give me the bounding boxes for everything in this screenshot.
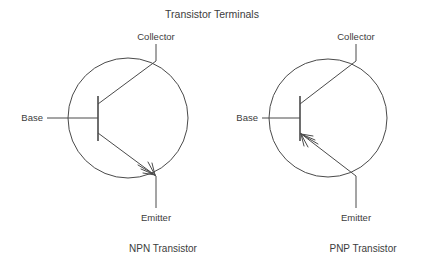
npn-emitter-slant [98, 133, 156, 176]
transistor-terminals-figure: Transistor Terminals [0, 0, 424, 267]
transistor-diagram-canvas: Transistor Terminals [0, 0, 424, 267]
npn-transistor-diagram: Base Collector Emitter NPN Transistor [21, 31, 197, 254]
figure-title: Transistor Terminals [165, 8, 259, 20]
pnp-collector-label: Collector [337, 31, 375, 42]
pnp-transistor-diagram: Base Collector Emitter PNP Transistor [236, 31, 397, 254]
pnp-base-label: Base [236, 112, 258, 123]
pnp-collector-slant [300, 61, 356, 104]
pnp-caption: PNP Transistor [329, 243, 397, 254]
npn-emitter-label: Emitter [141, 212, 171, 223]
npn-caption: NPN Transistor [129, 243, 197, 254]
pnp-emitter-label: Emitter [341, 212, 371, 223]
pnp-emitter-slant [300, 133, 356, 176]
npn-collector-label: Collector [137, 31, 175, 42]
npn-base-label: Base [21, 112, 43, 123]
npn-collector-slant [98, 61, 156, 104]
